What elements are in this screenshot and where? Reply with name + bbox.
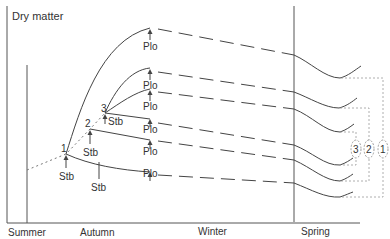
plo-label-4: Plo [143,124,158,135]
sowing-point-3: 3 [101,103,107,114]
stb-label-1: Stb [59,171,74,182]
curve-c-spring [294,109,354,132]
group-2-label: 2 [366,144,372,155]
plo-label-1: Plo [143,41,158,52]
plo-label-2: Plo [143,80,158,91]
plo-label-5: Plo [143,146,158,157]
season-autumn: Autumn [80,227,114,238]
curve-f-spring [294,183,353,197]
group-1-bracket [341,78,383,197]
season-winter: Winter [198,226,228,237]
arrow-up-icon [88,130,93,144]
stb-label-2: Stb [83,147,98,158]
arrow-up-icon [64,155,69,168]
curve-a-autumn [66,28,150,154]
curve-d-spring [294,145,353,165]
stb-label-extra: Stb [91,182,106,193]
sowing-point-1: 1 [61,143,67,154]
arrow-up-icon [148,69,153,80]
season-summer: Summer [8,227,46,238]
curve-b-winter [158,72,294,92]
season-spring: Spring [301,226,330,237]
curve-e-winter [158,141,294,160]
y-axis-label: Dry matter [12,10,64,22]
stb-label-3: Stb [108,116,123,127]
sowing-point-2: 2 [85,118,91,129]
plo-label-3: Plo [143,101,158,112]
curve-b-spring [294,92,357,108]
arrow-up-icon [148,29,153,40]
dry-matter-diagram: Dry matter Summer Autumn Winter Spring 1… [0,0,390,239]
group-3-label: 3 [353,144,359,155]
group-1-label: 1 [380,144,386,155]
curve-a-winter [158,29,294,55]
curve-d-winter [158,123,294,145]
curve-f-autumn [66,154,150,172]
arrow-up-icon [148,90,153,101]
plo-label-6: Plo [143,168,158,179]
curve-a-spring [294,55,361,78]
curve-f-winter [158,175,294,183]
curve-e-autumn [90,129,150,140]
curve-c-winter [158,92,294,109]
